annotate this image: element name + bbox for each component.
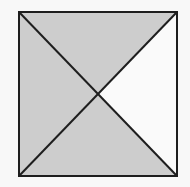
square-diagonals-diagram [0, 0, 190, 187]
